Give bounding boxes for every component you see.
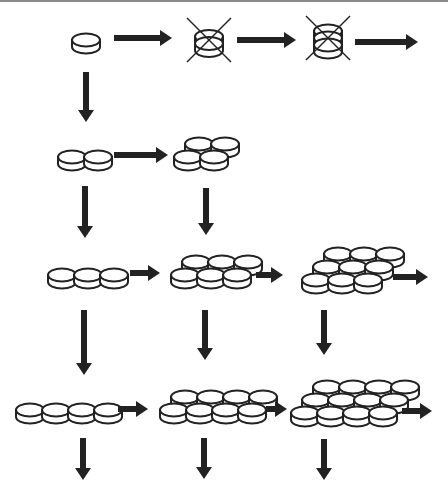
disc-icon (74, 269, 102, 289)
disc-icon (68, 404, 96, 424)
disc-icon (238, 404, 266, 424)
node-n3x3 (302, 248, 404, 294)
disc-icon (186, 404, 214, 424)
disc-icon (160, 404, 188, 424)
disc-icon (94, 404, 122, 424)
disc-icon (369, 407, 397, 427)
arrow-right-icon (355, 34, 418, 50)
disc-icon (16, 404, 44, 424)
disc-icon (48, 269, 76, 289)
arrow-down-icon (316, 439, 332, 480)
disc-growth-diagram (0, 0, 448, 487)
arrow-right-icon (114, 147, 168, 163)
arrow-right-icon (114, 30, 172, 46)
arrow-down-icon (78, 72, 94, 122)
disc-icon (212, 404, 240, 424)
node-n4x2 (160, 391, 277, 424)
arrow-right-icon (130, 265, 160, 281)
node-n2x2 (174, 138, 239, 171)
node-n3x1 (48, 269, 128, 289)
disc-icon (328, 274, 356, 294)
node-n1x1 (72, 34, 100, 54)
disc-icon (317, 407, 345, 427)
arrow-down-icon (77, 186, 93, 238)
disc-icon (302, 274, 330, 294)
disc-icon (291, 407, 319, 427)
disc-icon (171, 269, 199, 289)
arrow-down-icon (316, 310, 332, 355)
arrow-right-icon (237, 32, 296, 48)
disc-icon (72, 34, 100, 54)
arrow-down-icon (76, 310, 92, 375)
arrow-down-icon (198, 188, 214, 235)
disc-icon (354, 274, 382, 294)
arrow-down-icon (197, 310, 213, 360)
disc-icon (223, 269, 251, 289)
disc-icon (174, 151, 202, 171)
disc-icon (197, 269, 225, 289)
node-n2x1 (58, 151, 112, 171)
arrow-down-icon (196, 438, 212, 479)
top-divider-line (0, 0, 448, 2)
node-n4x1 (16, 404, 122, 424)
arrow-right-icon (393, 269, 428, 285)
node-n3x2 (171, 256, 262, 289)
arrow-down-icon (75, 438, 91, 480)
disc-icon (58, 151, 86, 171)
node-n1x1x3 (306, 16, 350, 60)
node-n4x3 (291, 381, 419, 427)
node-n1x1x2 (187, 18, 231, 62)
disc-icon (343, 407, 371, 427)
disc-icon (100, 269, 128, 289)
disc-icon (200, 151, 228, 171)
disc-icon (42, 404, 70, 424)
diagram-canvas (0, 0, 448, 487)
disc-icon (84, 151, 112, 171)
